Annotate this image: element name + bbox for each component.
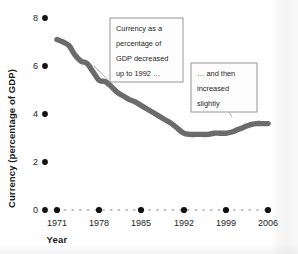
y-tick-dot [42, 111, 48, 117]
callout-increase-line: slightly [197, 99, 220, 108]
x-tick-dot [223, 207, 229, 213]
y-tick-dot [42, 159, 48, 165]
x-axis-title: Year [47, 234, 68, 245]
callout-decrease-line: up to 1992 … [116, 69, 160, 78]
x-tick-label: 1992 [174, 218, 194, 228]
y-tick-label: 2 [33, 157, 38, 167]
y-tick-label: 6 [33, 61, 38, 71]
chart-figure: Currency (percentage of GDP) 8 6 4 2 0 [0, 0, 298, 254]
y-tick-dot [42, 15, 48, 21]
y-tick-label: 4 [33, 109, 38, 119]
callout-decrease-line: GDP decreased [116, 54, 168, 63]
callout-increase: … and then increased slightly [191, 63, 257, 112]
y-tick-dot [42, 207, 48, 213]
x-tick-dot [54, 207, 60, 213]
callout-increase-line: … and then [197, 69, 235, 78]
x-tick-dot [96, 207, 102, 213]
x-tick-label: 1999 [216, 218, 236, 228]
y-axis-title: Currency (percentage of GDP) [6, 69, 17, 208]
callout-decrease: Currency as a percentage of GDP decrease… [110, 18, 183, 82]
callout-decrease-line: percentage of [116, 39, 162, 48]
callout-increase-line: increased [197, 84, 229, 93]
y-tick-label: 8 [33, 13, 38, 23]
y-tick-label: 0 [33, 205, 38, 215]
x-tick-dot [181, 207, 187, 213]
x-tick-dot [265, 207, 271, 213]
x-tick-dot [138, 207, 144, 213]
x-axis-ticks: 1971 1978 1985 1992 1999 2006 [47, 218, 278, 228]
x-tick-label: 1985 [131, 218, 151, 228]
currency-gdp-line-chart: Currency (percentage of GDP) 8 6 4 2 0 [0, 0, 298, 254]
x-tick-label: 2006 [258, 218, 278, 228]
y-axis-ticks: 8 6 4 2 0 [33, 13, 48, 215]
callout-decrease-line: Currency as a [116, 24, 163, 33]
x-axis-tick-dots [54, 207, 271, 213]
x-tick-label: 1971 [47, 218, 67, 228]
y-tick-dot [42, 63, 48, 69]
x-tick-label: 1978 [89, 218, 109, 228]
